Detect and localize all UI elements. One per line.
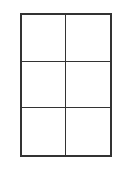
grid-diagram: [20, 13, 112, 157]
grid-cell: [22, 108, 66, 155]
grid-cell: [22, 62, 66, 109]
grid-cell: [22, 15, 66, 62]
grid-cell: [66, 15, 110, 62]
grid-cell: [66, 62, 110, 109]
grid-cell: [66, 108, 110, 155]
